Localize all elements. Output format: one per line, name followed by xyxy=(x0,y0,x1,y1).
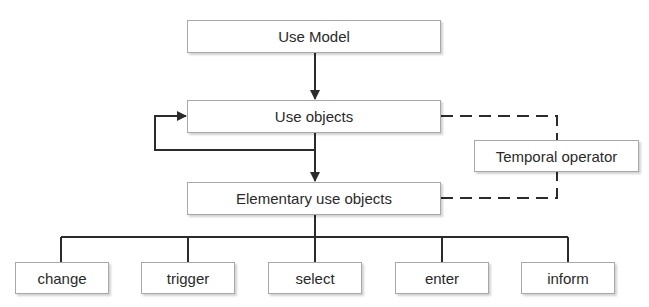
dashed-elementary-to-temporal xyxy=(441,172,557,198)
leaf-change: change xyxy=(15,262,109,294)
dashed-objects-to-temporal xyxy=(441,116,557,140)
leaf-enter: enter xyxy=(395,262,489,294)
leaf-inform: inform xyxy=(521,262,615,294)
node-temporal-operator: Temporal operator xyxy=(474,140,639,172)
node-use-model: Use Model xyxy=(187,20,441,53)
node-elementary-use-objects: Elementary use objects xyxy=(187,182,441,215)
leaf-select: select xyxy=(268,262,362,294)
leaf-trigger: trigger xyxy=(141,262,235,294)
node-use-objects: Use objects xyxy=(187,100,441,133)
